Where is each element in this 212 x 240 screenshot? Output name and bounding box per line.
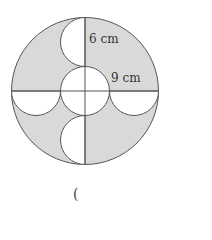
label-9cm: 9 cm <box>111 71 141 85</box>
answer-paren: ( <box>73 186 78 202</box>
label-6cm: 6 cm <box>89 32 119 46</box>
